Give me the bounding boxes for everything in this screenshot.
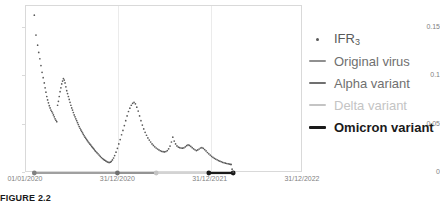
data-point [157, 148, 159, 150]
legend-item-label: Original virus [328, 54, 410, 69]
data-point [154, 146, 156, 148]
plot-area [25, 5, 302, 172]
data-point [148, 139, 150, 141]
data-point [114, 155, 116, 157]
data-point [82, 133, 84, 135]
data-point [205, 150, 207, 152]
data-point [68, 96, 70, 98]
data-point [54, 118, 56, 120]
data-point [183, 147, 185, 149]
data-point [129, 107, 131, 109]
data-point [141, 124, 143, 126]
data-point [191, 147, 193, 149]
data-point [52, 112, 54, 114]
data-point [82, 132, 84, 134]
data-point [208, 153, 210, 155]
data-point [61, 83, 63, 85]
data-point [147, 137, 149, 139]
legend-item-label: Delta variant [328, 98, 407, 113]
data-point [204, 149, 206, 151]
data-point [125, 120, 127, 122]
legend-swatch-shape [309, 104, 326, 106]
data-point [189, 145, 191, 147]
x-tick-label: 31/12/2020 [100, 175, 135, 183]
data-point [67, 93, 69, 95]
legend-item[interactable]: Delta variant [306, 94, 440, 116]
data-point [75, 118, 77, 120]
data-point [212, 156, 214, 158]
legend-swatch-shape [309, 60, 326, 62]
data-point [209, 154, 211, 156]
data-point [42, 77, 44, 79]
data-point [39, 58, 41, 60]
y-tick-label: 0 [418, 168, 440, 175]
legend-item[interactable]: Omicron variant [306, 116, 440, 138]
data-point [231, 168, 233, 170]
data-point [137, 110, 139, 112]
data-point [64, 82, 66, 84]
data-point [123, 125, 125, 127]
legend-dot-icon [306, 38, 328, 41]
data-point [68, 99, 70, 101]
x-tick-label: 01/01/2020 [7, 175, 42, 183]
data-point [81, 131, 83, 133]
figure-container: 00.050.10.15 01/01/202031/12/202031/12/2… [0, 0, 440, 202]
data-point [115, 151, 117, 153]
data-point [139, 115, 141, 117]
data-point [171, 141, 173, 143]
data-point [58, 101, 60, 103]
data-point [117, 147, 119, 149]
data-point [47, 99, 49, 101]
chart-data-layer [26, 6, 303, 173]
data-point [151, 143, 153, 145]
data-point [230, 164, 232, 166]
legend-line-icon [306, 60, 328, 62]
data-point [49, 107, 51, 109]
legend-swatch-shape [316, 38, 319, 41]
data-point [121, 134, 123, 136]
data-point [33, 14, 35, 16]
data-point [44, 87, 46, 89]
legend-item[interactable]: Alpha variant [306, 72, 440, 94]
y-tick-mark [22, 172, 25, 173]
data-point [60, 87, 62, 89]
data-point [172, 136, 174, 138]
legend-item-label: Alpha variant [328, 76, 410, 91]
data-point [59, 91, 61, 93]
data-point [72, 109, 74, 111]
data-point [78, 126, 80, 128]
data-point [150, 141, 152, 143]
legend-item-label: Omicron variant [328, 120, 434, 135]
data-point [175, 143, 177, 145]
data-point [55, 119, 57, 121]
data-point [128, 111, 130, 113]
data-point [133, 101, 135, 103]
data-point [211, 155, 213, 157]
data-point [119, 139, 121, 141]
data-point [113, 157, 115, 159]
data-point [41, 71, 43, 73]
chart-legend: IFR3Original virusAlpha variantDelta var… [306, 28, 440, 138]
data-point [122, 130, 124, 132]
data-point [53, 114, 55, 116]
data-point [63, 78, 65, 80]
data-point [69, 101, 71, 103]
data-point [132, 102, 134, 104]
data-point [118, 143, 120, 145]
legend-item[interactable]: IFR3 [306, 28, 440, 50]
data-point [45, 91, 47, 93]
data-point [51, 111, 53, 113]
data-point [153, 145, 155, 147]
data-point [169, 145, 171, 147]
figure-caption: FIGURE 2.2 [0, 193, 51, 202]
scatter-series [33, 14, 231, 165]
legend-item[interactable]: Original virus [306, 50, 440, 72]
legend-item-label: IFR3 [328, 31, 360, 48]
data-point [126, 115, 128, 117]
x-tick-label: 31/12/2022 [284, 175, 319, 183]
data-point [38, 52, 40, 54]
data-point [202, 147, 204, 149]
data-point [140, 120, 142, 122]
data-point [37, 44, 39, 46]
data-point [76, 120, 78, 122]
